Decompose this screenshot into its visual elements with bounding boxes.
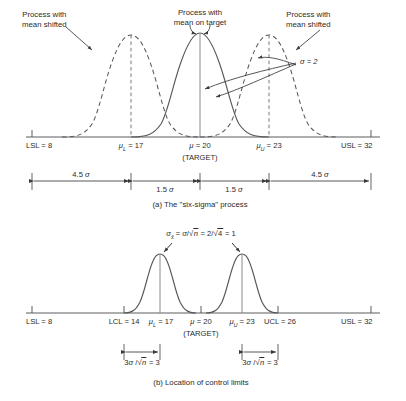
dimension-a-2-symbol: σ	[238, 185, 243, 194]
panel-b-caption: (b) Location of control limits	[153, 378, 248, 387]
dimension-a-1-symbol: σ	[169, 185, 174, 194]
leader-formula-right	[232, 243, 240, 252]
annotation-left-line2: mean shifted	[22, 20, 67, 29]
formula-slash-2: /	[211, 229, 213, 238]
sigma-value-label: σ = 2	[300, 57, 317, 66]
mu-center-a-value: = 20	[194, 141, 211, 150]
target-label-a: (TARGET)	[182, 153, 217, 162]
mu-lower-a-value: = 17	[126, 141, 143, 150]
annotation-right-line1: Process with	[286, 10, 330, 19]
dimension-label-b-1: 3σ /√n = 3	[242, 358, 277, 367]
dimension-label-a-1: 1.5 σ	[156, 185, 173, 194]
axis-label-lsl-b-text: LSL = 8	[26, 317, 52, 326]
axis-label-usl-b-text: USL = 32	[341, 317, 373, 326]
axis-label-mu-upper-a: μU = 23	[256, 141, 281, 152]
dimension-label-a-2: 1.5 σ	[225, 185, 242, 194]
dimension-label-a-0: 4.5 σ	[72, 170, 89, 179]
six-sigma-figure: Process with mean shifted Process with m…	[0, 0, 406, 401]
dimension-label-b-0: 3σ /√n = 3	[124, 358, 159, 367]
axis-label-lcl-text: LCL = 14	[109, 317, 140, 326]
axis-label-usl-a: USL = 32	[341, 141, 373, 150]
formula-slash-1: /	[187, 229, 189, 238]
dimension-b-1-mid: /	[251, 358, 255, 367]
leader-left-annotation	[66, 27, 92, 50]
annotation-mean-shifted-left: Process with mean shifted	[22, 10, 67, 30]
leader-formula-left	[164, 243, 172, 252]
dimension-b-1-post: = 3	[265, 358, 278, 367]
leader-right-annotation	[296, 30, 320, 50]
dimension-b-0-post: = 3	[147, 358, 160, 367]
axis-label-usl-b: USL = 32	[341, 317, 373, 326]
dimension-a-2-number: 1.5	[225, 185, 236, 194]
dimension-a-1-number: 1.5	[156, 185, 167, 194]
panel-a-graphics	[26, 25, 380, 190]
axis-label-mu-lower-b: μL = 17	[149, 317, 173, 328]
axis-label-ucl: UCL = 26	[264, 317, 296, 326]
target-label-b: (TARGET)	[183, 329, 218, 338]
leader-sigma-1	[205, 63, 296, 89]
axis-label-lsl-a-text: LSL = 8	[26, 141, 52, 150]
panel-b-graphics	[26, 243, 380, 360]
axis-label-usl-a-text: USL = 32	[341, 141, 373, 150]
axis-label-mu-center-a: μ = 20	[189, 141, 210, 150]
mu-upper-a-value: = 23	[265, 141, 282, 150]
mu-upper-b-value: = 23	[238, 317, 255, 326]
target-label-a-text: (TARGET)	[182, 153, 217, 162]
mu-center-b-value: = 20	[195, 317, 212, 326]
formula-equals-3: = 1	[223, 229, 236, 238]
annotation-mean-on-target: Process with mean on target	[174, 8, 226, 28]
annotation-right-line2: mean shifted	[286, 20, 331, 29]
axis-label-mu-center-b: μ = 20	[190, 317, 211, 326]
annotation-mean-shifted-right: Process with mean shifted	[286, 10, 331, 30]
sigma-value-text: σ = 2	[300, 57, 317, 66]
formula-equals-2: = 2	[198, 229, 211, 238]
mu-lower-b-value: = 17	[156, 317, 173, 326]
dimension-a-3-symbol: σ	[324, 170, 329, 179]
target-label-b-text: (TARGET)	[183, 329, 218, 338]
annotation-left-line1: Process with	[22, 10, 66, 19]
axis-label-ucl-text: UCL = 26	[264, 317, 296, 326]
axis-label-lsl-a: LSL = 8	[26, 141, 52, 150]
dimension-b-0-mid: /	[133, 358, 137, 367]
axis-label-mu-upper-b: μU = 23	[229, 317, 254, 328]
dimension-a-0-symbol: σ	[85, 170, 90, 179]
panel-b-caption-text: (b) Location of control limits	[153, 378, 248, 387]
panel-a-caption-text: (a) The "six-sigma" process	[152, 200, 247, 209]
dimension-label-a-3: 4.5 σ	[311, 170, 328, 179]
leader-sigma-3	[258, 57, 296, 65]
panel-a-caption: (a) The "six-sigma" process	[152, 200, 247, 209]
axis-label-lcl: LCL = 14	[109, 317, 140, 326]
axis-label-lsl-b: LSL = 8	[26, 317, 52, 326]
dimension-a-0-number: 4.5	[72, 170, 83, 179]
dimension-a-3-number: 4.5	[311, 170, 322, 179]
formula-equals-1: =	[174, 229, 183, 238]
axis-label-mu-lower-a: μL = 17	[119, 141, 143, 152]
standard-error-formula: σx̄ = σ/√n = 2/√4 = 1	[166, 229, 235, 240]
annotation-center-line1: Process with	[178, 8, 222, 17]
annotation-center-line2: mean on target	[174, 18, 226, 27]
